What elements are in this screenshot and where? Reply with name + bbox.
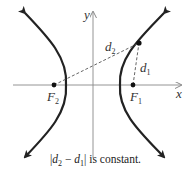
f2-label: F2 (46, 89, 59, 106)
focus-f1-point (131, 83, 136, 88)
y-axis-label: y (82, 7, 90, 22)
d1-label: d1 (140, 60, 151, 77)
d2-label: d2 (105, 39, 116, 56)
curve-point (136, 40, 141, 45)
caption-rest: is constant. (86, 153, 141, 165)
hyperbola-diagram: y x d2 d1 F2 F1 |d2 − d1| is constant. (0, 0, 191, 187)
focus-f2-point (52, 83, 57, 88)
caption-minus: − (62, 153, 74, 165)
caption: |d2 − d1| is constant. (0, 153, 191, 168)
x-axis-label: x (175, 86, 182, 101)
f1-label: F1 (129, 89, 142, 106)
distance-d1-line (133, 43, 139, 85)
